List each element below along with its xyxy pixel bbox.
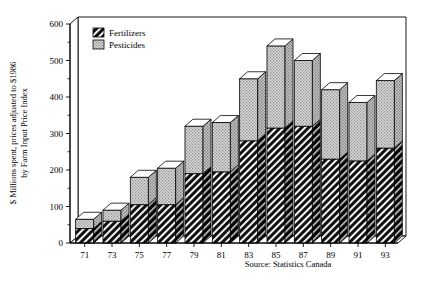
x-tick-label: 81 xyxy=(217,250,226,260)
x-tick-label: 93 xyxy=(381,250,391,260)
y-tick-label: 500 xyxy=(50,56,64,66)
bar-column xyxy=(103,203,129,243)
legend-label-fertilizers: Fertilizers xyxy=(109,28,146,38)
chart-geometry: 0100200300400500600717375777981838587899… xyxy=(50,17,407,260)
bar-column xyxy=(212,116,238,243)
y-axis-title-line1: $ Millions spent, prices adjusted to $19… xyxy=(8,62,18,204)
x-tick-label: 71 xyxy=(80,250,89,260)
bar-column xyxy=(322,83,348,243)
y-tick-label: 300 xyxy=(50,129,64,139)
bar-column xyxy=(158,161,184,243)
bar-column xyxy=(185,119,211,243)
x-tick-label: 73 xyxy=(108,250,118,260)
pesticides-swatch xyxy=(93,40,104,49)
y-axis-title: $ Millions spent, prices adjusted to $19… xyxy=(8,62,29,204)
bar-column xyxy=(76,212,102,243)
y-tick-label: 600 xyxy=(50,19,64,29)
bar-column xyxy=(294,54,320,244)
y-tick-label: 100 xyxy=(50,202,64,212)
y-tick-label: 400 xyxy=(50,92,64,102)
bar-column xyxy=(240,72,266,243)
y-tick-label: 0 xyxy=(59,238,64,248)
bar-column xyxy=(349,95,375,243)
bar-column xyxy=(130,170,156,243)
bar-column xyxy=(267,39,293,243)
x-tick-label: 91 xyxy=(354,250,363,260)
x-tick-label: 77 xyxy=(162,250,172,260)
legend-label-pesticides: Pesticides xyxy=(109,40,145,50)
x-tick-label: 79 xyxy=(190,250,200,260)
chart-container: 0100200300400500600717375777981838587899… xyxy=(0,0,432,283)
bar-column xyxy=(376,74,402,243)
y-axis-title-line2: by Farm Input Price Index xyxy=(19,87,29,177)
y-tick-label: 200 xyxy=(50,165,64,175)
bar-chart: 0100200300400500600717375777981838587899… xyxy=(0,0,432,283)
x-tick-label: 75 xyxy=(135,250,145,260)
fertilizers-swatch xyxy=(93,28,104,37)
source-note: Source: Statistics Canada xyxy=(245,259,332,269)
